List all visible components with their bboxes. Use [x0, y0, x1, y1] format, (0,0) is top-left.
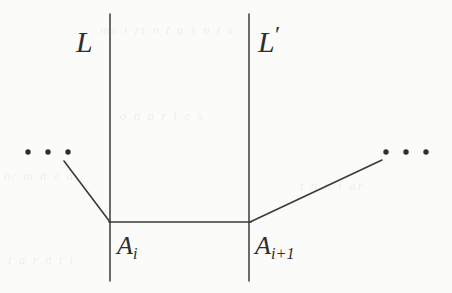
- label-vertex-a-i: Ai: [117, 233, 137, 259]
- ellipsis-dot: [423, 149, 428, 154]
- label-line-L-text: L: [76, 25, 93, 58]
- ellipsis-dot: [25, 149, 30, 154]
- label-vertex-a-i-base: A: [117, 231, 133, 260]
- ellipsis-dot: [403, 149, 408, 154]
- label-vertex-a-i-subscript: i: [133, 245, 138, 262]
- label-vertex-a-i-plus-1-base: A: [255, 231, 271, 260]
- prime-mark-icon: ′: [275, 21, 280, 47]
- label-vertex-a-i-plus-1: Ai+1: [255, 233, 295, 259]
- label-line-L: L: [76, 27, 93, 57]
- ellipsis-dot: [65, 149, 70, 154]
- left-ellipsis-dots: [25, 149, 70, 154]
- right-diagonal-segment: [250, 160, 382, 222]
- right-ellipsis-dots: [383, 149, 428, 154]
- figure-container: ms i rt n t a s n t s o n a r t e s o/ m…: [0, 0, 452, 293]
- label-vertex-a-i-plus-1-subscript: i+1: [271, 245, 295, 262]
- label-line-L-prime-base: L: [258, 25, 275, 58]
- label-line-L-prime: L′: [258, 27, 280, 57]
- figure-drawing: [0, 0, 452, 293]
- ellipsis-dot: [45, 149, 50, 154]
- left-diagonal-segment: [64, 161, 110, 222]
- ellipsis-dot: [383, 149, 388, 154]
